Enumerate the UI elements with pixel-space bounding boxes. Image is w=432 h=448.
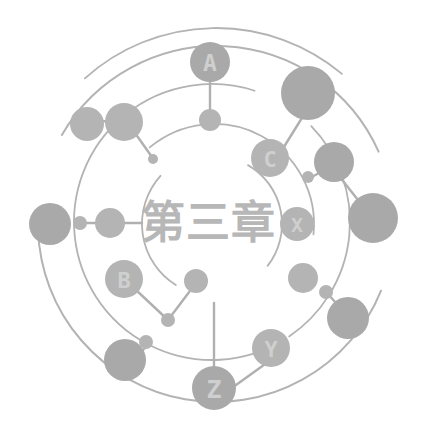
node-b-dot-circle (161, 313, 175, 327)
node-hub-mid (184, 269, 208, 293)
node-a: A (190, 42, 230, 82)
node-upper-left-outer-circle (70, 107, 104, 141)
node-right-dot2-circle (319, 285, 333, 299)
node-right-upper-circle (314, 142, 354, 182)
chapter-title: 第三章 (141, 197, 276, 248)
network-diagram: ABCXYZ 第三章 (0, 0, 432, 448)
node-bottom-left-dot-circle (139, 335, 153, 349)
node-upper-left-inner (105, 103, 143, 141)
node-a-sub (199, 109, 221, 131)
node-left-dot (73, 216, 87, 230)
node-hub-mid-circle (184, 269, 208, 293)
node-right-mid (288, 263, 318, 293)
node-y-circle (252, 329, 290, 367)
node-bottom-left-dot (139, 335, 153, 349)
chapter-illustration: ABCXYZ 第三章 (0, 0, 432, 448)
node-b-circle (105, 260, 143, 298)
node-b-dot (161, 313, 175, 327)
node-upper-left-dot-circle (148, 154, 158, 164)
node-left-mid (95, 208, 125, 238)
node-upper-left-outer (70, 107, 104, 141)
node-right-mid-circle (288, 263, 318, 293)
node-upper-left-dot (148, 154, 158, 164)
node-right-small-dot-circle (302, 171, 314, 183)
node-right-lower-circle (327, 297, 369, 339)
node-z-circle (192, 366, 236, 410)
edge-z-to-y-arc (236, 362, 268, 385)
node-left-big-circle (29, 203, 71, 245)
node-right-largest-circle (348, 193, 398, 243)
node-right-upper (314, 142, 354, 182)
node-left-mid-circle (95, 208, 125, 238)
node-c: C (251, 139, 289, 177)
node-x: X (280, 207, 314, 241)
node-a-circle (190, 42, 230, 82)
node-right-dot2 (319, 285, 333, 299)
node-left-dot-circle (73, 216, 87, 230)
node-right-largest (348, 193, 398, 243)
node-top-right-big-circle (281, 66, 335, 120)
node-bottom-left (104, 339, 146, 381)
node-left-big (29, 203, 71, 245)
node-a-sub-circle (199, 109, 221, 131)
node-right-small-dot (302, 171, 314, 183)
node-upper-left-inner-circle (105, 103, 143, 141)
node-x-circle (280, 207, 314, 241)
node-c-circle (251, 139, 289, 177)
node-bottom-left-circle (104, 339, 146, 381)
node-b: B (105, 260, 143, 298)
node-top-right-big (281, 66, 335, 120)
node-y: Y (252, 329, 290, 367)
node-z: Z (192, 366, 236, 410)
node-right-lower (327, 297, 369, 339)
